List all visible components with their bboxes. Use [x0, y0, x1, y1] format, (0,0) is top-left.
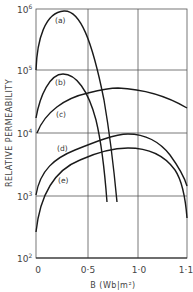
curve-b: [36, 74, 107, 202]
grid: [36, 9, 187, 258]
x-tick-0: 0: [35, 265, 41, 275]
x-axis-title: B (Wb|m²): [90, 281, 135, 290]
curve-label-b: (b): [55, 78, 66, 87]
x-tick-labels: 0 0·5 1·0 1·1: [35, 265, 193, 275]
x-tick-0.5: 0·5: [81, 265, 95, 275]
y-tick-1e3: 103: [17, 190, 32, 202]
chart: (a) (b) (c) (d) (e) 106 105 104 103 102 …: [0, 0, 193, 292]
curve-label-d: (d): [57, 144, 68, 153]
curve-e: [36, 148, 187, 232]
y-tick-1e4: 104: [17, 127, 32, 139]
y-tick-1e6: 106: [17, 3, 32, 15]
y-tick-1e5: 105: [17, 64, 32, 76]
curve-label-c: (c): [56, 110, 66, 119]
curves: [36, 11, 187, 232]
y-axis-title: RELATIVE PERMEABILITY: [5, 79, 14, 187]
y-tick-1e2: 102: [17, 252, 32, 264]
curve-label-a: (a): [55, 16, 66, 25]
plot-frame: [36, 9, 187, 258]
curve-label-e: (e): [58, 176, 69, 185]
x-tick-1.0: 1·0: [132, 265, 147, 275]
y-tick-labels: 106 105 104 103 102: [17, 3, 32, 264]
x-tick-1.1: 1·1: [179, 265, 193, 275]
